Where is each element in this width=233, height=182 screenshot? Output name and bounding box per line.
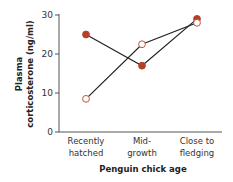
y-tick-label: 20 — [42, 49, 54, 59]
svg-text:Plasma: Plasma — [14, 56, 24, 91]
data-point-marker — [83, 95, 90, 102]
svg-text:hatched: hatched — [69, 148, 104, 158]
y-axis-title: Plasma corticosterone (ng/ml) — [14, 20, 35, 128]
y-tick-label: 0 — [47, 127, 53, 137]
svg-text:growth: growth — [127, 148, 157, 158]
svg-text:fledging: fledging — [180, 148, 215, 158]
line-chart: 30 20 10 0 Plasma corticosterone (ng/ml)… — [0, 0, 233, 182]
y-tick-label: 30 — [42, 10, 54, 20]
x-axis-title: Penguin chick age — [99, 164, 187, 174]
series-layer — [83, 16, 201, 103]
data-point-marker — [83, 31, 90, 38]
y-ticks: 30 20 10 0 — [42, 10, 59, 137]
svg-text:corticosterone (ng/ml): corticosterone (ng/ml) — [25, 20, 35, 128]
series-line-1 — [86, 23, 197, 99]
data-point-marker — [139, 62, 146, 69]
y-tick-label: 10 — [42, 88, 54, 98]
svg-text:Close to: Close to — [180, 136, 214, 146]
svg-text:Recently: Recently — [68, 136, 105, 146]
data-point-marker — [194, 19, 201, 26]
svg-text:Mid-: Mid- — [133, 136, 151, 146]
x-category-labels: Recently hatched Mid- growth Close to fl… — [68, 136, 215, 158]
data-point-marker — [139, 41, 146, 48]
